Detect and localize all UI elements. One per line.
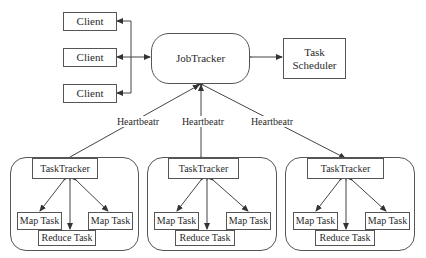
reduce-task-label: Reduce Task bbox=[179, 232, 230, 244]
map-task-right-2: Map Task bbox=[226, 212, 271, 230]
task-scheduler-line2: Scheduler bbox=[293, 59, 337, 72]
map-task-label: Map Task bbox=[296, 215, 335, 227]
reduce-task-1: Reduce Task bbox=[38, 230, 96, 246]
tasktracker-box-3: TaskTracker bbox=[307, 158, 384, 179]
client-label: Client bbox=[77, 51, 104, 64]
tasktracker-box-2: TaskTracker bbox=[168, 158, 239, 179]
reduce-task-label: Reduce Task bbox=[319, 232, 370, 244]
map-task-left-1: Map Task bbox=[17, 212, 62, 230]
tasktracker-box-1: TaskTracker bbox=[32, 158, 98, 179]
reduce-task-3: Reduce Task bbox=[315, 230, 375, 246]
map-task-label: Map Task bbox=[91, 215, 130, 227]
heartbeat-label-1: Heartbeatr bbox=[116, 116, 160, 127]
jobtracker-label: JobTracker bbox=[176, 52, 225, 65]
client-box-3: Client bbox=[63, 84, 117, 103]
heartbeat-label-3: Heartbeatr bbox=[250, 116, 294, 127]
map-task-left-2: Map Task bbox=[154, 212, 199, 230]
map-task-label: Map Task bbox=[20, 215, 59, 227]
map-task-left-3: Map Task bbox=[293, 212, 338, 230]
task-scheduler-line1: Task bbox=[304, 46, 325, 59]
client-label: Client bbox=[77, 15, 104, 28]
tasktracker-label: TaskTracker bbox=[321, 163, 370, 175]
tasktracker-label: TaskTracker bbox=[179, 163, 228, 175]
map-task-label: Map Task bbox=[368, 215, 407, 227]
tasktracker-label: TaskTracker bbox=[40, 163, 89, 175]
map-task-right-1: Map Task bbox=[88, 212, 133, 230]
client-box-1: Client bbox=[63, 12, 117, 31]
jobtracker-node: JobTracker bbox=[151, 33, 250, 84]
client-label: Client bbox=[77, 87, 104, 100]
task-scheduler-box: Task Scheduler bbox=[283, 38, 346, 79]
heartbeat-label-2: Heartbeatr bbox=[181, 116, 225, 127]
reduce-task-2: Reduce Task bbox=[175, 230, 235, 246]
client-box-2: Client bbox=[63, 48, 117, 67]
map-task-label: Map Task bbox=[229, 215, 268, 227]
reduce-task-label: Reduce Task bbox=[41, 232, 92, 244]
map-task-label: Map Task bbox=[157, 215, 196, 227]
map-task-right-3: Map Task bbox=[365, 212, 410, 230]
